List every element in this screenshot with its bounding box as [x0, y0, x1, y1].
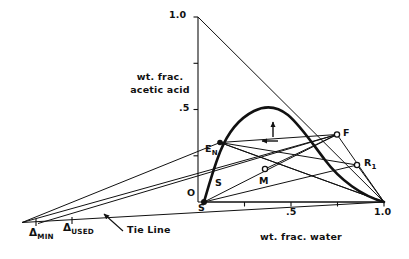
point-label-extract-en-sub: N: [212, 149, 218, 157]
direction-arrows: [262, 122, 278, 141]
x-axis-title: wt. frac. water: [246, 232, 356, 243]
y-axis-title-line1: wt. frac.: [115, 72, 205, 83]
point-label-raffinate-r1-sub: 1: [372, 163, 377, 171]
point-marker-F: [334, 132, 339, 137]
x-tick-label-0-5: .5: [286, 207, 297, 218]
operating-line-delta-to-EN: [22, 143, 220, 223]
point-label-feed-f: F: [343, 128, 350, 139]
point-label-extract-en: EN: [205, 144, 218, 158]
annotation-delta-used: ΔUSED: [63, 222, 94, 236]
point-marker-EN: [217, 140, 223, 146]
y-tick-label-1-0: 1.0: [169, 10, 186, 21]
delta-min-subscript: MIN: [37, 232, 53, 241]
point-label-extract-en-main: E: [205, 143, 212, 154]
point-label-origin-o: O: [187, 188, 195, 199]
point-marker-M: [262, 166, 267, 171]
delta-used-subscript: USED: [71, 227, 94, 236]
point-label-origin-s: S: [198, 203, 205, 214]
point-label-solvent-branch-s: S: [215, 178, 222, 189]
ternary-phase-diagram-figure: 1.0 .5 .5 1.0 wt. frac. acetic acid wt. …: [0, 0, 409, 259]
ternary-hypotenuse: [198, 17, 384, 202]
y-tick-label-0-5: .5: [179, 103, 190, 114]
point-label-raffinate-r1: R1: [364, 158, 377, 172]
point-marker-R1: [354, 162, 359, 167]
point-label-mix-m: M: [259, 176, 269, 187]
y-axis-title-line2: acetic acid: [115, 85, 205, 96]
x-tick-label-1-0: 1.0: [374, 207, 391, 218]
point-label-raffinate-r1-main: R: [364, 157, 372, 168]
annotation-tie-line: Tie Line: [127, 225, 171, 236]
annotation-delta-min: ΔMIN: [29, 227, 54, 241]
